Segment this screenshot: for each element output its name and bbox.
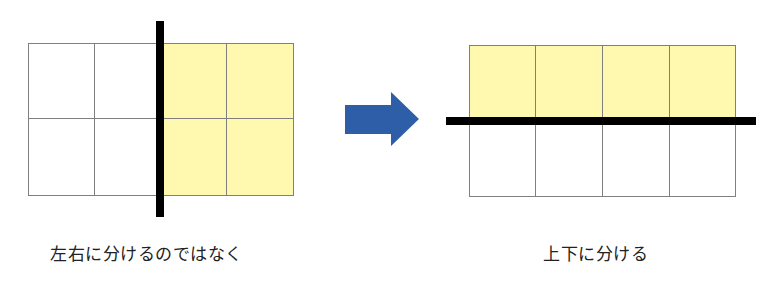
left-caption: 左右に分けるのではなく [50, 240, 243, 265]
horizontal-divider [446, 117, 756, 125]
vertical-divider [156, 21, 164, 217]
left-grid-col-line-1 [94, 43, 95, 196]
right-caption: 上下に分ける [543, 240, 648, 265]
right-arrow-icon [345, 92, 419, 148]
left-grid-col-line-3 [226, 43, 227, 196]
left-diagram [0, 0, 330, 230]
right-diagram [430, 0, 776, 230]
